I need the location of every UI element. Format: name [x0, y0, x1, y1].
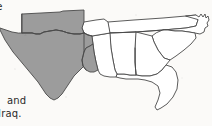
- body-text-fragment-top: e: [0, 1, 3, 12]
- scanned-page: e and Iraq.: [0, 0, 212, 126]
- body-text-fragment-iraq: Iraq.: [0, 108, 22, 119]
- body-text-fragment-and: and: [7, 95, 26, 106]
- state-texas: [0, 28, 93, 100]
- us-states-map: [0, 0, 212, 126]
- state-arkansas: [82, 19, 110, 36]
